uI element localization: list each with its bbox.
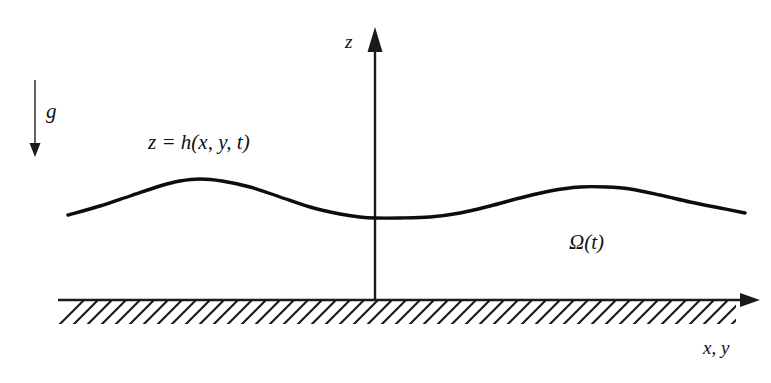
free-surface-curve: [68, 179, 745, 218]
z-axis-label: z: [345, 32, 352, 51]
diagram-canvas: [0, 0, 771, 383]
bed-hatching-icon: [58, 300, 756, 326]
free-surface-label: z = h(x, y, t): [148, 132, 250, 153]
gravity-label: g: [46, 101, 57, 122]
fluid-domain-label: Ω(t): [569, 232, 604, 253]
gravity-arrow-icon: [30, 80, 41, 157]
x-axis-label: x, y: [703, 338, 729, 357]
z-axis: [368, 27, 383, 301]
shallow-water-schematic-figure: g z z = h(x, y, t) Ω(t) x, y: [0, 0, 771, 383]
